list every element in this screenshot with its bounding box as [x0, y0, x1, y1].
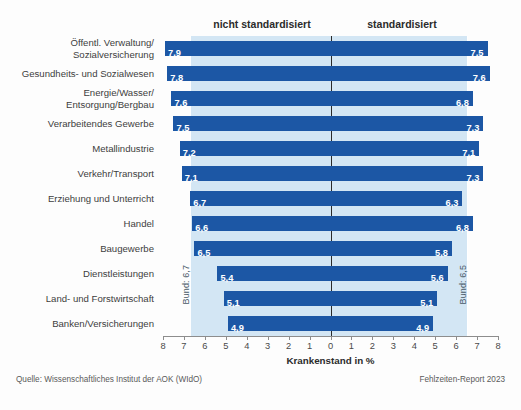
axis-tick — [435, 336, 436, 340]
bar-standardisiert: 7,3 — [331, 166, 484, 181]
bar-value-label: 4,9 — [416, 321, 429, 336]
bar-row: Öffentl. Verwaltung/Sozialversicherung7,… — [163, 36, 498, 61]
axis-tick-label: 1 — [300, 341, 320, 351]
axis-tick — [247, 336, 248, 340]
bund-label-left: Bund: 6,7 — [181, 265, 191, 304]
bund-label-right: Bund: 6,5 — [458, 265, 468, 304]
bar-value-label: 5,1 — [227, 296, 240, 311]
bar-value-label: 5,4 — [220, 271, 233, 286]
axis-tick — [184, 336, 185, 340]
axis-tick — [310, 336, 311, 340]
bar-row: Gesundheits- und Sozialwesen7,87,6 — [163, 61, 498, 86]
bar-value-label: 6,7 — [193, 196, 206, 211]
axis-tick — [372, 336, 373, 340]
category-label: Banken/Versicherungen — [0, 311, 154, 336]
category-label: Metallindustrie — [0, 136, 154, 161]
x-axis-title: Krankenstand in % — [163, 355, 498, 366]
bar-row: Baugewerbe6,55,8 — [163, 236, 498, 261]
bar-standardisiert: 6,8 — [331, 216, 473, 231]
bar-nicht-standardisiert: 7,1 — [182, 166, 331, 181]
category-label: Dienstleistungen — [0, 261, 154, 286]
bar-nicht-standardisiert: 6,6 — [192, 216, 330, 231]
bar-value-label: 7,3 — [466, 121, 479, 136]
axis-tick-label: 3 — [258, 341, 278, 351]
bar-row: Dienstleistungen5,45,6 — [163, 261, 498, 286]
bar-nicht-standardisiert: 5,4 — [217, 266, 330, 281]
category-label: Verarbeitendes Gewerbe — [0, 111, 154, 136]
axis-tick — [331, 336, 332, 340]
bar-value-label: 7,6 — [174, 96, 187, 111]
bar-value-label: 7,5 — [176, 121, 189, 136]
category-label: Erziehung und Unterricht — [0, 186, 154, 211]
bar-standardisiert: 6,3 — [331, 191, 463, 206]
bar-value-label: 6,8 — [456, 221, 469, 236]
bar-nicht-standardisiert: 7,5 — [173, 116, 330, 131]
bar-row: Banken/Versicherungen4,94,9 — [163, 311, 498, 336]
bar-nicht-standardisiert: 5,1 — [224, 291, 331, 306]
bar-value-label: 7,9 — [168, 46, 181, 61]
axis-tick-label: 0 — [321, 341, 341, 351]
bar-value-label: 7,6 — [473, 71, 486, 86]
bar-value-label: 5,8 — [435, 246, 448, 261]
plot-area: Öffentl. Verwaltung/Sozialversicherung7,… — [163, 36, 498, 336]
chart-page: nicht standardisiert standardisiert Öffe… — [0, 0, 521, 410]
report-note: Fehlzeiten-Report 2023 — [419, 375, 505, 384]
legend-label-nicht-standardisiert: nicht standardisiert — [190, 18, 334, 34]
category-label: Land- und Forstwirtschaft — [0, 286, 154, 311]
bar-row: Energie/Wasser/Entsorgung/Bergbau7,66,8 — [163, 86, 498, 111]
category-label: Gesundheits- und Sozialwesen — [0, 61, 154, 86]
axis-tick — [226, 336, 227, 340]
bar-value-label: 7,2 — [183, 146, 196, 161]
axis-tick — [289, 336, 290, 340]
bar-standardisiert: 7,1 — [331, 141, 480, 156]
axis-tick-label: 6 — [446, 341, 466, 351]
bar-nicht-standardisiert: 6,5 — [194, 241, 330, 256]
axis-tick-label: 8 — [488, 341, 508, 351]
bar-value-label: 6,5 — [197, 246, 210, 261]
bar-nicht-standardisiert: 6,7 — [190, 191, 330, 206]
axis-tick-label: 7 — [467, 341, 487, 351]
bar-value-label: 7,1 — [462, 146, 475, 161]
bar-nicht-standardisiert: 7,9 — [165, 41, 330, 56]
bar-value-label: 6,6 — [195, 221, 208, 236]
bar-value-label: 5,6 — [431, 271, 444, 286]
source-note: Quelle: Wissenschaftliches Institut der … — [16, 375, 202, 384]
bar-nicht-standardisiert: 7,8 — [167, 66, 330, 81]
category-label: Öffentl. Verwaltung/Sozialversicherung — [0, 36, 154, 61]
axis-tick-label: 4 — [237, 341, 257, 351]
category-label: Handel — [0, 211, 154, 236]
bar-row: Verkehr/Transport7,17,3 — [163, 161, 498, 186]
axis-tick-label: 8 — [153, 341, 173, 351]
bar-standardisiert: 5,8 — [331, 241, 452, 256]
axis-tick-label: 2 — [362, 341, 382, 351]
bar-nicht-standardisiert: 4,9 — [228, 316, 331, 331]
bar-row: Handel6,66,8 — [163, 211, 498, 236]
category-label: Verkehr/Transport — [0, 161, 154, 186]
axis-tick-label: 3 — [383, 341, 403, 351]
axis-tick — [498, 336, 499, 340]
bar-row: Land- und Forstwirtschaft5,15,1 — [163, 286, 498, 311]
axis-tick — [268, 336, 269, 340]
bar-row: Erziehung und Unterricht6,76,3 — [163, 186, 498, 211]
bar-nicht-standardisiert: 7,2 — [180, 141, 331, 156]
axis-tick-label: 4 — [404, 341, 424, 351]
axis-tick — [393, 336, 394, 340]
bar-standardisiert: 6,8 — [331, 91, 473, 106]
bar-value-label: 6,8 — [456, 96, 469, 111]
axis-tick-label: 5 — [425, 341, 445, 351]
axis-tick — [477, 336, 478, 340]
bar-standardisiert: 5,1 — [331, 291, 438, 306]
axis-tick-label: 2 — [279, 341, 299, 351]
bar-value-label: 7,8 — [170, 71, 183, 86]
axis-tick-label: 1 — [341, 341, 361, 351]
bar-value-label: 7,3 — [466, 171, 479, 186]
bar-standardisiert: 5,6 — [331, 266, 448, 281]
bar-value-label: 6,3 — [445, 196, 458, 211]
axis-tick — [163, 336, 164, 340]
bar-standardisiert: 4,9 — [331, 316, 434, 331]
axis-tick — [414, 336, 415, 340]
bar-value-label: 7,1 — [185, 171, 198, 186]
bar-row: Verarbeitendes Gewerbe7,57,3 — [163, 111, 498, 136]
legend-label-standardisiert: standardisiert — [334, 18, 470, 34]
bar-standardisiert: 7,3 — [331, 116, 484, 131]
